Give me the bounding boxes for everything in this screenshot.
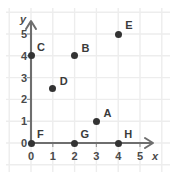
point-label-h: H [124, 129, 132, 140]
y-tick-label-4: 4 [14, 50, 27, 62]
point-label-f: F [37, 129, 44, 140]
y-tick-label-5: 5 [14, 28, 27, 40]
point-label-c: C [37, 42, 45, 53]
point-label-b: B [82, 43, 90, 54]
data-point-h [115, 140, 122, 147]
x-tick-label-4: 4 [111, 150, 125, 162]
point-label-d: D [60, 76, 68, 87]
x-tick-label-1: 1 [46, 150, 60, 162]
data-point-a [93, 118, 100, 125]
data-point-f [28, 140, 35, 147]
y-tick-label-2: 2 [14, 93, 27, 105]
point-label-a: A [103, 108, 111, 119]
point-label-e: E [125, 20, 132, 31]
y-tick-label-1: 1 [14, 115, 27, 127]
y-tick-label-3: 3 [14, 72, 27, 84]
data-point-e [115, 31, 122, 38]
x-axis-label: x [152, 150, 158, 162]
x-tick-label-2: 2 [68, 150, 82, 162]
x-tick-label-5: 5 [133, 150, 147, 162]
point-label-g: G [81, 129, 90, 140]
x-tick-label-3: 3 [89, 150, 103, 162]
y-tick-label-0: 0 [14, 137, 27, 149]
y-axis-label: y [20, 13, 26, 25]
data-point-c [28, 52, 35, 59]
x-tick-label-0: 0 [24, 150, 38, 162]
data-point-g [71, 140, 78, 147]
coordinate-plane-figure: 012345 012345 x y ABCDEFGH [0, 0, 174, 179]
